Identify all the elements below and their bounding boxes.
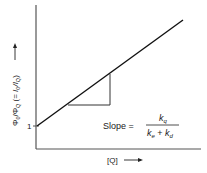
slope-denominator: ke + kd	[147, 128, 174, 139]
x-arrow-head-icon	[138, 158, 143, 162]
slope-prefix: Slope =	[103, 121, 134, 131]
y-axis-label: Φ0/ΦQ (= I0/IQ)	[11, 43, 21, 126]
slope-triangle	[68, 74, 110, 105]
x-axis-label: [Q]	[107, 156, 118, 165]
y-arrow-head-icon	[13, 43, 17, 48]
intercept-label: 1	[27, 122, 32, 131]
svg-text:Φ0/ΦQ (= I0/IQ): Φ0/ΦQ (= I0/IQ)	[11, 75, 21, 126]
stern-volmer-line	[37, 20, 183, 126]
slope-numerator: kq	[159, 113, 168, 124]
stern-volmer-diagram: 1 Slope = kq ke + kd [Q] Φ0/ΦQ (= I0/IQ)	[0, 0, 207, 173]
